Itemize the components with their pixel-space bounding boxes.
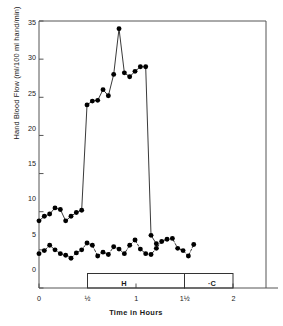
- data-point: [74, 210, 79, 215]
- data-point: [63, 218, 68, 223]
- plot-canvas: [0, 0, 283, 326]
- data-point: [133, 69, 138, 74]
- data-point: [143, 64, 148, 69]
- series-line-0: [39, 29, 156, 244]
- data-point: [149, 252, 154, 257]
- data-point: [42, 214, 47, 219]
- data-point: [117, 247, 122, 252]
- data-point: [165, 237, 170, 242]
- chart-figure: Hand Blood Flow (ml/100 ml hand/min) 35 …: [0, 0, 283, 326]
- data-point: [122, 70, 127, 75]
- data-point: [69, 256, 74, 261]
- data-point: [127, 243, 132, 248]
- data-point: [106, 252, 111, 257]
- data-point: [138, 64, 143, 69]
- data-point: [186, 254, 191, 259]
- data-point: [53, 247, 58, 252]
- data-point: [122, 251, 127, 256]
- data-point: [175, 246, 180, 251]
- data-point: [53, 205, 58, 210]
- data-point: [133, 237, 138, 242]
- data-point: [106, 93, 111, 98]
- data-point: [74, 250, 79, 255]
- data-point: [47, 212, 52, 217]
- data-point: [170, 236, 175, 241]
- data-point: [159, 239, 164, 244]
- data-point: [37, 218, 42, 223]
- data-point: [90, 99, 95, 104]
- data-point: [191, 242, 196, 247]
- data-point: [79, 247, 84, 252]
- data-point: [85, 241, 90, 246]
- data-point: [149, 233, 154, 238]
- data-point: [63, 253, 68, 258]
- data-point: [154, 246, 159, 251]
- data-point: [95, 254, 100, 259]
- data-point: [111, 72, 116, 77]
- series-line-1: [39, 238, 194, 258]
- data-point: [79, 208, 84, 213]
- data-point: [37, 251, 42, 256]
- data-point: [111, 244, 116, 249]
- data-point: [143, 251, 148, 256]
- data-point: [181, 248, 186, 253]
- treatment-bar-c: [185, 274, 234, 289]
- data-point: [69, 214, 74, 219]
- data-point: [42, 248, 47, 253]
- data-point: [95, 98, 100, 103]
- data-point: [117, 26, 122, 31]
- data-point: [127, 74, 132, 79]
- data-point: [58, 251, 63, 256]
- data-point: [90, 243, 95, 248]
- plot-frame: [39, 21, 266, 288]
- data-point: [101, 87, 106, 92]
- data-point: [47, 243, 52, 248]
- data-point: [85, 102, 90, 107]
- data-point: [101, 250, 106, 255]
- data-point: [58, 207, 63, 212]
- data-point: [138, 247, 143, 252]
